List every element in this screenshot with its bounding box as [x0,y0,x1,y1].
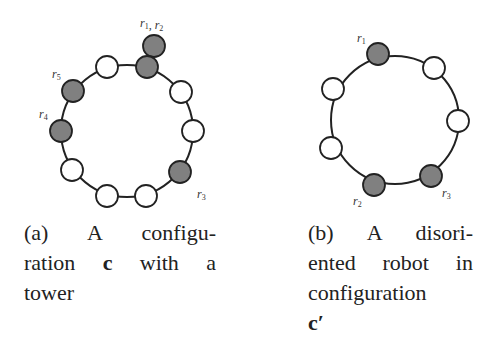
caption-a-line-1: (a) A configu- [24,218,216,248]
robot-label: r3 [442,186,451,201]
caption-b: (b) A disori- ented robot in configurati… [308,218,473,338]
robot-label: r2 [353,194,362,209]
caption-b-word: robot [383,248,429,278]
caption-b-word: configuration [308,278,427,308]
caption-b-line-4: c′ [308,308,473,338]
caption-a-word: configu- [141,218,216,248]
caption-b-config-symbol: c′ [308,308,324,338]
caption-a-word: with [140,248,179,278]
empty-node [447,110,469,132]
caption-b-word: disori- [416,218,473,248]
occupied-node [136,56,158,78]
figure-a-ring-graph: r1, r2r5r4r3 [39,16,206,207]
caption-b-line-2: ented robot in [308,248,473,278]
caption-b-word: in [456,248,473,278]
occupied-node [367,43,389,65]
robot-label: r5 [52,67,61,82]
empty-node [61,159,83,181]
empty-node [96,56,118,78]
occupied-node [169,161,191,183]
occupied-node [420,165,442,187]
caption-a-line-3: tower [24,278,216,308]
robot-label: r1, r2 [140,16,163,33]
caption-a-word: (a) [24,218,48,248]
caption-a-word: tower [24,278,74,308]
caption-a-config-symbol: c [103,248,113,278]
caption-a-word: a [206,248,216,278]
empty-node [96,185,118,207]
caption-a: (a) A configu- ration c with a tower [24,218,216,308]
robot-label: r4 [39,107,48,122]
caption-a-line-2: ration c with a [24,248,216,278]
empty-node [320,137,342,159]
robot-label: r3 [197,187,206,202]
occupied-node [363,174,385,196]
robot-label: r1 [357,31,366,46]
empty-node [322,78,344,100]
occupied-node [62,80,84,102]
caption-a-word: A [87,218,103,248]
empty-node [135,185,157,207]
caption-b-line-3: configuration [308,278,473,308]
caption-b-word: (b) [308,218,334,248]
caption-b-word: ented [308,248,356,278]
empty-node [182,120,204,142]
caption-a-word: ration [24,248,75,278]
figure-b-ring-graph: r1r3r2 [320,31,469,209]
empty-node [170,81,192,103]
caption-b-line-1: (b) A disori- [308,218,473,248]
caption-b-word: A [367,218,383,248]
occupied-node [50,120,72,142]
tower-robot-node [143,35,165,57]
empty-node [423,57,445,79]
